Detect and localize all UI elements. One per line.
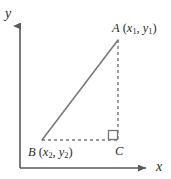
x-axis-label: x bbox=[156, 160, 162, 174]
point-b-coordinates: (x2, y2) bbox=[39, 145, 73, 159]
segment-hypotenuse-ba bbox=[42, 40, 118, 140]
point-a-x-subscript: 1 bbox=[132, 27, 136, 36]
point-a-name: A bbox=[112, 21, 120, 35]
geometry-diagram: y x A(x1, y1) B(x2, y2) C bbox=[0, 0, 171, 179]
point-b-x-subscript: 2 bbox=[48, 151, 52, 160]
y-axis-label: y bbox=[5, 7, 11, 21]
point-b-name: B bbox=[28, 145, 36, 159]
right-angle-marker-icon bbox=[109, 131, 118, 140]
point-a-paren-close: ) bbox=[152, 21, 156, 35]
point-b-paren-close: ) bbox=[68, 145, 72, 159]
point-a-coordinates: (x1, y1) bbox=[123, 21, 157, 35]
point-label-b: B(x2, y2) bbox=[28, 146, 73, 159]
point-label-c: C bbox=[115, 145, 123, 158]
point-label-a: A(x1, y1) bbox=[112, 22, 157, 35]
point-a-y-subscript: 1 bbox=[148, 27, 152, 36]
point-b-y-subscript: 2 bbox=[64, 151, 68, 160]
